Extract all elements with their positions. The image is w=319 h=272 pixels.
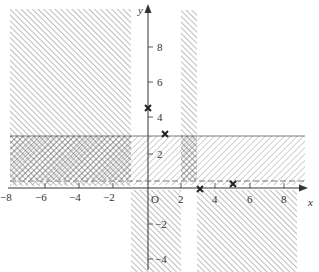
y-tick-label: 6 (157, 76, 163, 88)
origin-label: O (151, 193, 159, 205)
region-top-left (10, 9, 131, 136)
x-axis-arrow-icon (299, 185, 308, 192)
inequality-diagram: y x O 8 6 4 2 −2 −4 −8 −6 −4 −2 2 4 6 8 (0, 0, 319, 272)
x-tick-label: 2 (178, 193, 184, 205)
y-tick-label: 2 (157, 148, 163, 160)
y-tick-label: 8 (157, 41, 163, 53)
diagram-canvas: y x O 8 6 4 2 −2 −4 −8 −6 −4 −2 2 4 6 8 (0, 0, 319, 272)
x-tick-label: −6 (35, 191, 47, 203)
x-tick-label: −4 (69, 191, 81, 203)
region-band-overlap-left (10, 136, 131, 180)
x-tick-label: −2 (103, 191, 115, 203)
y-tick-label: −2 (155, 218, 167, 230)
region-vertical-strip (181, 10, 197, 136)
y-axis-arrow-icon (145, 4, 152, 13)
region-band-overlap-strip (181, 136, 197, 180)
x-tick-label: 8 (281, 193, 287, 205)
x-tick-label: 6 (247, 193, 253, 205)
y-tick-label: −4 (155, 253, 167, 265)
x-axis-label: x (307, 196, 313, 208)
y-axis-label: y (137, 4, 143, 16)
x-tick-label: 4 (212, 193, 218, 205)
x-tick-label: −8 (0, 191, 12, 203)
y-tick-label: 4 (157, 111, 163, 123)
